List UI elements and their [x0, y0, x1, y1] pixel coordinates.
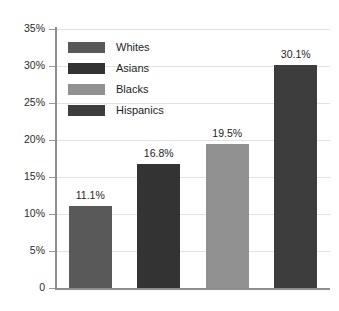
bar-blacks [206, 144, 249, 288]
legend-label-asians: Asians [116, 63, 149, 74]
y-axis-tick-label: 10% [1, 208, 45, 219]
bar-asians [137, 164, 180, 288]
x-axis-line [55, 288, 330, 290]
y-axis-tick-label: 25% [1, 97, 45, 108]
bar-value-label-asians: 16.8% [129, 148, 189, 159]
legend-label-hispanics: Hispanics [116, 105, 164, 116]
legend-swatch-blacks [68, 84, 105, 95]
legend-item: Blacks [68, 80, 164, 98]
plot-area: 05%10%15%20%25%30%35% 11.1%16.8%19.5%30.… [0, 0, 339, 311]
legend-swatch-whites [68, 42, 105, 53]
y-axis-tick-label: 35% [1, 23, 45, 34]
y-axis-tick-label: 15% [1, 171, 45, 182]
y-axis-tick-label: 0 [1, 282, 45, 293]
y-axis-tick-label-wrap: 30% [0, 60, 45, 72]
y-axis-tick-label-wrap: 25% [0, 97, 45, 109]
y-axis-tick-label-wrap: 5% [0, 245, 45, 257]
bar-value-label-hispanics: 30.1% [266, 49, 326, 60]
legend-label-whites: Whites [116, 42, 150, 53]
gridline [56, 29, 330, 30]
bar-hispanics [274, 65, 317, 288]
legend-item: Asians [68, 59, 164, 77]
bar-value-label-whites: 11.1% [60, 190, 120, 201]
legend-swatch-asians [68, 63, 105, 74]
bar-whites [69, 206, 112, 288]
legend-item: Whites [68, 38, 164, 56]
y-axis-line [55, 27, 57, 289]
legend: Whites Asians Blacks Hispanics [68, 38, 164, 122]
y-axis-tick-label: 30% [1, 60, 45, 71]
y-axis-tick-label-wrap: 0 [0, 282, 45, 294]
y-axis-tick-label-wrap: 35% [0, 23, 45, 35]
y-axis-tick-label: 20% [1, 134, 45, 145]
y-axis-tick-label-wrap: 10% [0, 208, 45, 220]
bar-value-label-blacks: 19.5% [197, 128, 257, 139]
bar-chart: 05%10%15%20%25%30%35% 11.1%16.8%19.5%30.… [0, 0, 339, 311]
y-axis-tick-label-wrap: 15% [0, 171, 45, 183]
legend-swatch-hispanics [68, 105, 105, 116]
y-axis-tick-label-wrap: 20% [0, 134, 45, 146]
y-axis-tick-label: 5% [1, 245, 45, 256]
legend-label-blacks: Blacks [116, 84, 148, 95]
legend-item: Hispanics [68, 101, 164, 119]
